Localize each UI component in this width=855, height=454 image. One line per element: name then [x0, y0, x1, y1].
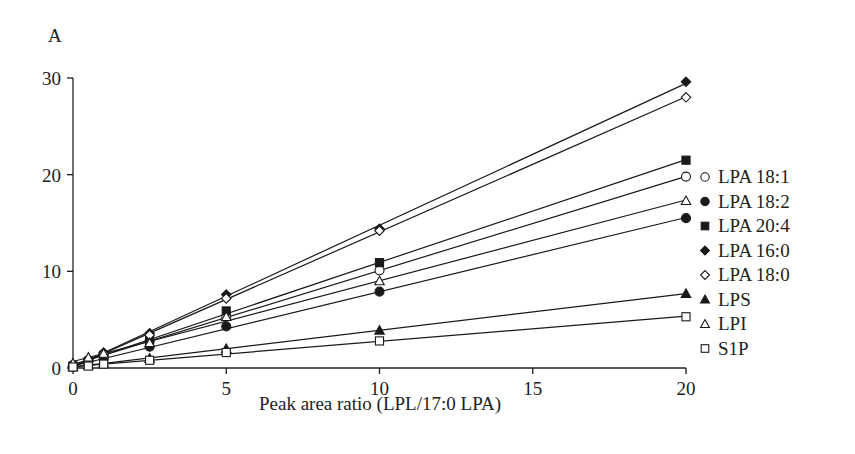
data-point	[681, 93, 690, 102]
y-ticks: 0102030	[42, 68, 73, 379]
calibration-chart: A 0102030 05101520 Peak area ratio (LPL/…	[0, 0, 855, 454]
legend-label: LPA 16:0	[718, 240, 790, 261]
legend-item: LPA 18:1	[701, 166, 790, 187]
legend-marker-icon	[701, 173, 709, 181]
data-point	[84, 362, 92, 370]
data-point	[69, 363, 77, 371]
data-point	[222, 348, 230, 356]
x-tick-label: 20	[677, 378, 696, 399]
x-tick-label: 15	[523, 378, 542, 399]
data-point	[682, 172, 691, 181]
legend-marker-icon	[701, 320, 710, 328]
y-tick-label: 30	[42, 68, 61, 89]
legend-item: LPA 18:0	[701, 264, 790, 285]
legend: LPA 18:1LPA 18:2LPA 20:4LPA 16:0LPA 18:0…	[701, 166, 791, 359]
legend-marker-icon	[701, 271, 710, 280]
legend-label: LPS	[718, 289, 751, 310]
data-point	[375, 337, 383, 345]
legend-marker-icon	[701, 345, 709, 353]
data-point	[375, 287, 384, 296]
data-point	[375, 259, 383, 267]
legend-item: S1P	[701, 338, 748, 359]
legend-item: LPA 16:0	[701, 240, 790, 261]
x-tick-label: 5	[222, 378, 232, 399]
legend-label: LPI	[718, 313, 747, 334]
legend-item: LPA 18:2	[701, 191, 790, 212]
legend-item: LPS	[701, 289, 751, 310]
legend-marker-icon	[701, 222, 709, 230]
y-tick-label: 10	[42, 261, 61, 282]
legend-label: LPA 18:1	[718, 166, 790, 187]
legend-marker-icon	[701, 246, 710, 255]
data-point	[681, 289, 690, 298]
legend-marker-icon	[701, 295, 710, 303]
legend-label: LPA 18:2	[718, 191, 790, 212]
y-tick-label: 0	[52, 358, 62, 379]
data-point	[682, 313, 690, 321]
panel-label: A	[48, 25, 62, 46]
y-tick-label: 20	[42, 165, 61, 186]
data-point	[682, 156, 690, 164]
legend-marker-icon	[701, 197, 709, 205]
data-point	[682, 214, 691, 223]
x-tick-label: 0	[68, 378, 78, 399]
legend-label: S1P	[718, 338, 749, 359]
legend-label: LPA 18:0	[718, 264, 790, 285]
x-axis-title: Peak area ratio (LPL/17:0 LPA)	[259, 393, 501, 415]
data-point	[146, 356, 154, 364]
data-point	[375, 276, 384, 285]
legend-item: LPA 20:4	[701, 215, 790, 236]
data-point	[100, 360, 108, 368]
legend-label: LPA 20:4	[718, 215, 790, 236]
legend-item: LPI	[701, 313, 747, 334]
data-point	[222, 322, 231, 331]
